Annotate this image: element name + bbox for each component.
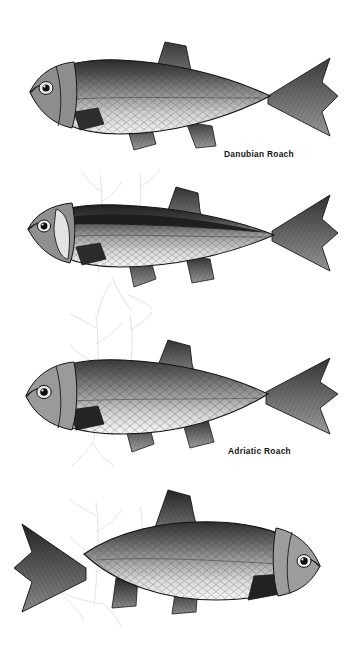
- fish-head: [30, 62, 77, 128]
- fish-illustration-icon: [0, 310, 350, 470]
- fish-illustration-icon: [0, 165, 350, 320]
- fish-panel-calandino: Calandino Roach: [0, 310, 350, 470]
- fish-panel-danubian: Danubian Roach: [0, 0, 350, 170]
- fish-species-plate: Danubian Roach: [0, 0, 350, 650]
- fish-illustration-icon: [0, 462, 350, 650]
- fish-panel-adriatic: Adriatic Roach: [0, 165, 350, 320]
- species-label-danubian: Danubian Roach: [224, 149, 294, 159]
- fish-illustration-icon: [0, 0, 350, 170]
- fish-head: [26, 362, 77, 430]
- fish-panel-pearl: Pearl Roach: [0, 462, 350, 650]
